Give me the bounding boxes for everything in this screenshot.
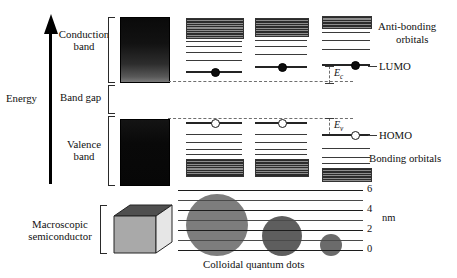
ev-measure-line (329, 118, 330, 135)
ruler-unit-label: nm (382, 212, 395, 223)
ev-label: Ev (334, 119, 343, 133)
label-bonding-orbitals: Bonding orbitals (369, 152, 441, 164)
lumo-leader-line (368, 66, 377, 67)
levels-valence-large-dot (186, 122, 242, 184)
bracket-conduction-band (108, 17, 115, 83)
conduction-band-block (120, 17, 170, 83)
quasi-continuum-cluster (255, 159, 309, 177)
energy-level (186, 149, 242, 150)
ev-cap-top (325, 118, 334, 119)
energy-level (255, 142, 307, 143)
energy-level (255, 40, 307, 41)
diagram-canvas: Energy Conductionband Band gap Valenceba… (0, 0, 457, 278)
energy-level (322, 163, 370, 164)
energy-level (322, 40, 370, 41)
label-anti-bonding-orbitals-2: orbitals (396, 33, 428, 45)
label-macroscopic-semiconductor: Macroscopicsemiconductor (12, 218, 108, 242)
ruler-tick-label-0: 0 (367, 243, 372, 254)
energy-level (255, 46, 307, 47)
energy-level-homo (322, 134, 370, 136)
energy-axis-arrow (44, 14, 58, 184)
electron-marker-filled (351, 61, 360, 70)
energy-level (322, 148, 370, 149)
quasi-continuum-cluster (255, 18, 309, 37)
label-anti-bonding-orbitals: Anti-bonding (378, 20, 436, 32)
label-band-gap: Band gap (60, 91, 101, 103)
gridline-2-overlay (178, 230, 363, 231)
hole-marker-open (351, 131, 360, 140)
energy-level (322, 157, 370, 158)
gridline-0-overlay (178, 250, 363, 251)
ec-label: Ec (334, 67, 343, 81)
quantum-dot-small (320, 234, 342, 256)
bracket-valence-band (108, 116, 115, 186)
energy-level (186, 134, 242, 135)
levels-conduction-large-dot (186, 18, 242, 82)
energy-level (255, 134, 307, 135)
bracket-band-gap (108, 85, 115, 114)
label-valence-band: Valenceband (58, 138, 110, 162)
gridline-1-overlay (178, 240, 363, 241)
label-conduction-band: Conductionband (58, 28, 110, 52)
hole-marker-open (211, 119, 220, 128)
energy-level (186, 46, 242, 47)
bracket-macroscopic (100, 205, 107, 254)
levels-valence-small-dot (322, 134, 370, 184)
gridline-5-overlay (178, 200, 363, 201)
ruler-tick-label-6: 6 (367, 183, 372, 194)
energy-level (186, 142, 242, 143)
energy-level (322, 32, 370, 33)
macroscopic-semiconductor-cube (112, 203, 174, 255)
ec-cap-top (325, 66, 334, 67)
caption-colloidal-quantum-dots: Colloidal quantum dots (203, 258, 304, 270)
ec-measure-line (329, 66, 330, 83)
ec-cap-bottom (325, 83, 334, 84)
label-homo: HOMO (379, 129, 412, 141)
homo-leader-line (368, 135, 377, 136)
gridline-6-overlay (178, 190, 363, 191)
arrow-shaft (49, 26, 52, 184)
energy-level (255, 149, 307, 150)
quantum-dot-large (186, 194, 248, 256)
electron-marker-filled (278, 63, 287, 72)
energy-level (322, 49, 370, 50)
energy-level (186, 52, 242, 53)
valence-band-block (120, 119, 170, 186)
energy-level (255, 154, 307, 155)
ruler-tick-label-4: 4 (367, 203, 372, 214)
gridline-3-overlay (178, 220, 363, 221)
quasi-continuum-cluster (322, 168, 372, 182)
levels-valence-medium-dot (255, 122, 307, 184)
levels-conduction-medium-dot (255, 18, 307, 82)
energy-level (186, 154, 242, 155)
gridline-4-overlay (178, 210, 363, 211)
energy-level (186, 60, 242, 61)
electron-marker-filled (211, 68, 220, 77)
label-lumo: LUMO (379, 60, 411, 72)
hole-marker-open (278, 119, 287, 128)
cube-icon (112, 203, 174, 255)
quasi-continuum-cluster (322, 16, 372, 29)
energy-level (255, 54, 307, 55)
energy-level (186, 41, 242, 42)
energy-axis-label: Energy (6, 92, 37, 104)
ruler-tick-label-2: 2 (367, 223, 372, 234)
quasi-continuum-cluster (186, 18, 244, 39)
quasi-continuum-cluster (186, 159, 244, 177)
